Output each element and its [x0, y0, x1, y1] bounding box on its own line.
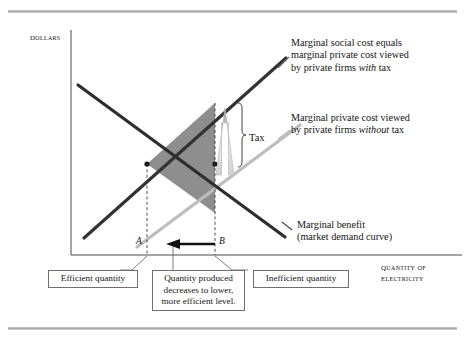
leader-line-efficient [120, 256, 147, 270]
point-b-label: B [219, 236, 225, 248]
pointer-mb [282, 222, 292, 230]
marginal-benefit-label: Marginal benefit (market demand curve) [297, 219, 462, 244]
msc-label-emphasis: with [359, 62, 377, 73]
marginal-private-cost-label: Marginal private cost viewed by private … [291, 112, 463, 137]
mpc-label-tail: tax [389, 124, 404, 135]
tax-brace [238, 103, 246, 167]
x-axis-label-line2: Electricity [381, 272, 424, 285]
callout-efficient-quantity: Efficient quantity [48, 270, 138, 288]
callout-inefficient-quantity: Inefficient quantity [253, 270, 349, 288]
callout-quantity-shift: Quantity produced decreases to lower, mo… [152, 270, 245, 311]
leader-line-inefficient [215, 256, 248, 270]
msc-label-tail: tax [376, 62, 391, 73]
tax-label: Tax [249, 132, 265, 145]
economics-figure: Dollars Quantity of Electricity Marginal… [0, 0, 465, 343]
y-axis-label: Dollars [30, 31, 61, 44]
marginal-social-cost-label: Marginal social cost equals marginal pri… [291, 37, 463, 74]
mpc-label-emphasis: without [359, 124, 390, 135]
point-a-label: A [136, 236, 142, 248]
